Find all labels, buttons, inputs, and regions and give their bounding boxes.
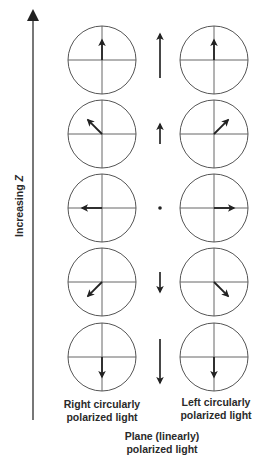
e-field-vector-arrow-icon	[214, 120, 228, 134]
axis-label-var: Z	[13, 175, 25, 181]
left-circular-state-0	[180, 26, 248, 94]
axis-arrowhead-icon	[27, 9, 39, 21]
linear-zero-dot	[158, 206, 162, 210]
plane-polarized-label: Plane (linearly) polarized light	[112, 430, 212, 456]
left-circular-state-1	[180, 100, 248, 168]
linear-column	[158, 34, 162, 383]
axis-label: Increasing Z	[13, 175, 25, 237]
right-circular-state-1	[68, 100, 136, 168]
right-circular-state-4	[68, 323, 136, 391]
right-circular-state-0	[68, 26, 136, 94]
left-circular-state-3	[180, 248, 248, 316]
left-circular-state-2	[180, 174, 248, 242]
increasing-z-axis	[27, 9, 39, 420]
right-circular-state-2	[68, 174, 136, 242]
left-circular-label-line1: Left circularly	[166, 396, 266, 409]
right-circular-label-line1: Right circularly	[52, 398, 152, 411]
left-circular-column	[180, 26, 248, 391]
right-circular-label-line2: polarized light	[52, 411, 152, 424]
right-circular-column	[68, 26, 136, 391]
left-circular-state-4	[180, 323, 248, 391]
plane-polarized-label-line2: polarized light	[112, 443, 212, 456]
e-field-vector-arrow-icon	[214, 282, 228, 296]
plane-polarized-label-line1: Plane (linearly)	[112, 430, 212, 443]
e-field-vector-arrow-icon	[88, 120, 102, 134]
left-circular-label-line2: polarized light	[166, 409, 266, 422]
e-field-vector-arrow-icon	[88, 282, 102, 296]
axis-label-prefix: Increasing	[13, 181, 25, 236]
right-circular-state-3	[68, 248, 136, 316]
right-circular-label: Right circularly polarized light	[52, 398, 152, 424]
polarization-diagram	[0, 0, 268, 460]
left-circular-label: Left circularly polarized light	[166, 396, 266, 422]
